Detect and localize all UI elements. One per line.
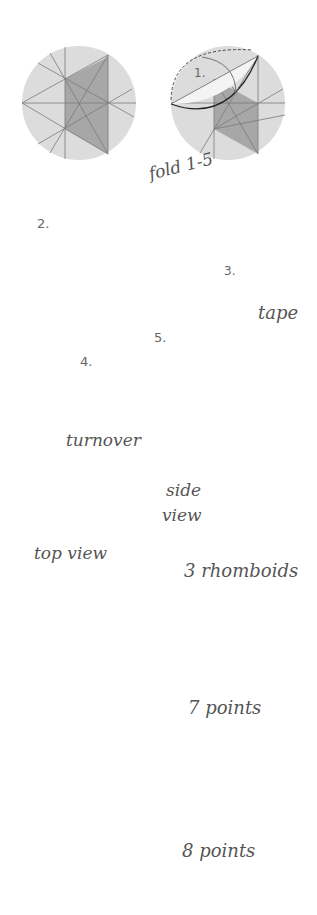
three-rhomboids-label: 3 rhomboids: [184, 560, 298, 581]
circle-diagram-start: [22, 46, 136, 160]
turnover-label: turnover: [66, 430, 141, 450]
step-4-label: 4.: [80, 354, 92, 369]
top-view-label: top view: [34, 543, 107, 563]
step-3-label: 3.: [224, 264, 235, 278]
step-2-label: 2.: [37, 216, 49, 231]
circle-diagram-step-1: [171, 46, 285, 160]
eight-points-label: 8 points: [182, 840, 255, 861]
origami-diagram: [0, 0, 317, 915]
side-label: side: [166, 480, 201, 500]
seven-points-label: 7 points: [188, 697, 261, 718]
view-label: view: [162, 505, 202, 525]
step-1-label: 1.: [194, 66, 205, 80]
step-5-label: 5.: [154, 330, 166, 345]
tape-label: tape: [258, 302, 298, 323]
